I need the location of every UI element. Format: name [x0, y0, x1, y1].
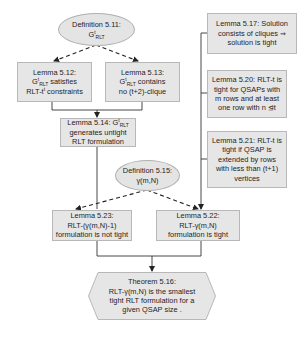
node-lemma-5-21: Lemma 5.21: RLT-t is tight if QSAP is ex…: [207, 131, 287, 188]
node-title: Definition 5.11:: [72, 20, 121, 29]
node-text-line: GtRLT contains: [119, 77, 166, 86]
node-text-line: RLT-(γ(m,N)-1): [56, 221, 128, 230]
node-text-line: GtRLT satisfies: [26, 77, 83, 86]
node-title: Lemma 5.17: Solution: [216, 19, 288, 28]
node-text-line: solution is tight: [216, 38, 288, 47]
node-title: Definition 5.15:: [123, 166, 172, 175]
node-text-line: with less than (t+1): [212, 164, 282, 173]
node-text-line: tight if QSAP is: [212, 145, 282, 154]
node-title: Lemma 5.14: GtRLT: [67, 118, 128, 127]
edge-def511-lem513: [96, 45, 138, 61]
edge-lem512-lem514: [52, 102, 97, 110]
node-definition-5-15: Definition 5.15: γ(m,N): [115, 160, 180, 191]
node-text-line: RLT-tt constraints: [26, 87, 83, 96]
node-title: Lemma 5.22:: [168, 211, 228, 220]
node-text-line: no (t+2)-clique: [119, 87, 166, 96]
edge-lem513-lem514: [97, 102, 142, 110]
node-title: Lemma 5.20: RLT-t is: [212, 75, 282, 84]
edge-def515-lem523: [76, 190, 147, 209]
node-title: Lemma 5.12:: [26, 68, 83, 77]
node-lemma-5-17: Lemma 5.17: Solution consists of cliques…: [207, 13, 297, 54]
node-lemma-5-20: Lemma 5.20: RLT-t is tight for QSAPs wit…: [207, 70, 287, 118]
node-text-line: γ(m,N): [123, 176, 172, 185]
node-lemma-5-12: Lemma 5.12: GtRLT satisfies RLT-tt const…: [17, 62, 92, 102]
node-text-line: tight RLT formulation for a: [109, 296, 196, 305]
node-text-line: formulation is tight: [168, 230, 228, 239]
node-text-line: RLT-γ(m,N) is the smallest: [109, 287, 196, 296]
node-title: Lemma 5.21: RLT-t is: [212, 136, 282, 145]
node-text-line: RLT formulation: [67, 137, 128, 146]
node-theorem-5-16: Theorem 5.16: RLT-γ(m,N) is the smallest…: [88, 272, 216, 320]
node-text-line: m rows and at least: [212, 94, 282, 103]
edge-def511-lem512: [54, 45, 96, 61]
node-lemma-5-22: Lemma 5.22: RLT-γ(m,N) formulation is ti…: [156, 210, 240, 241]
node-text-line: one row with n ⊴t: [212, 103, 282, 112]
node-definition-5-11: Definition 5.11: GtRLT: [58, 13, 135, 46]
node-text-line: extended by rows: [212, 155, 282, 164]
node-lemma-5-23: Lemma 5.23: RLT-(γ(m,N)-1) formulation i…: [52, 210, 132, 241]
proof-dependency-diagram: Definition 5.11: GtRLT Lemma 5.12: GtRLT…: [0, 0, 304, 337]
edge-def515-lem522: [147, 190, 198, 209]
node-lemma-5-13: Lemma 5.13: GtRLT contains no (t+2)-cliq…: [105, 62, 180, 102]
node-lemma-5-14: Lemma 5.14: GtRLT generates untight RLT …: [60, 118, 136, 147]
node-text-line: tight for QSAPs with: [212, 85, 282, 94]
node-text-line: consists of cliques ⇒: [216, 29, 288, 38]
node-text-line: formulation is not tight: [56, 230, 128, 239]
node-text-line: generates untight: [67, 128, 128, 137]
edge-lem522-thm516: [152, 240, 201, 256]
node-title: Theorem 5.16:: [109, 277, 196, 286]
node-text-line: RLT-γ(m,N): [168, 221, 228, 230]
node-text-line: given QSAP size .: [109, 305, 196, 314]
node-title: Lemma 5.23:: [56, 211, 128, 220]
edge-lem523-thm516: [97, 240, 152, 256]
node-symbol: GtRLT: [72, 30, 121, 39]
node-text-line: vertices: [212, 174, 282, 183]
